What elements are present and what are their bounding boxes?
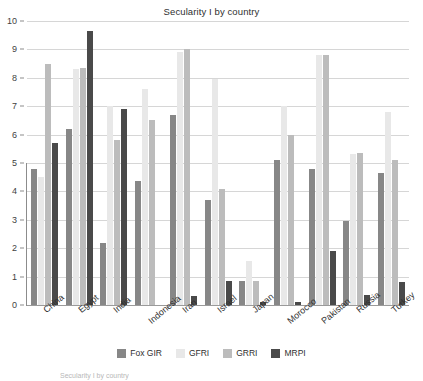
y-axis-tick-mark (20, 276, 24, 277)
x-axis-label-slot: Turkey (374, 306, 409, 348)
y-axis-tick-label: 8 (12, 73, 17, 82)
y-axis-tick-mark (20, 77, 24, 78)
x-axis-labels: ChinaEgyptIndiaIndonesiaIranIsraelJapanM… (27, 306, 409, 348)
bar (107, 106, 113, 305)
bar-group (166, 21, 201, 305)
x-axis-label-slot: Iran (166, 306, 201, 348)
legend-item[interactable]: GRRI (223, 348, 257, 358)
bar-group (96, 21, 131, 305)
bar (184, 49, 190, 305)
y-axis-tick-mark (20, 134, 24, 135)
legend-swatch (117, 349, 126, 358)
y-axis-tick-label: 0 (12, 301, 17, 310)
bar (343, 221, 349, 305)
legend-label: MRPI (284, 348, 305, 358)
bar (392, 160, 398, 305)
y-axis-tick-mark (20, 106, 24, 107)
y-axis-tick-mark (20, 191, 24, 192)
bar-group (235, 21, 270, 305)
y-axis-tick-label: 5 (12, 159, 17, 168)
bar-group (62, 21, 97, 305)
x-axis-label-slot: Pakistan (305, 306, 340, 348)
chart-legend: Fox GIRGFRIGRRIMRPI (0, 348, 423, 358)
bar-group (201, 21, 236, 305)
bar (38, 177, 44, 305)
bar (177, 52, 183, 305)
y-axis-tick-mark (20, 21, 24, 22)
legend-label: Fox GIR (130, 348, 162, 358)
x-axis-label-slot: Israel (201, 306, 236, 348)
bar (205, 200, 211, 305)
bar (219, 189, 225, 305)
bar (288, 135, 294, 305)
y-axis-tick-mark (20, 163, 24, 164)
bar (170, 115, 176, 305)
x-axis-label-slot: Morocco (270, 306, 305, 348)
bar-group (27, 21, 62, 305)
bar-chart: Secularity I by country 012345678910 Chi… (0, 0, 423, 381)
legend-label: GRRI (236, 348, 257, 358)
legend-swatch (271, 349, 280, 358)
bar (149, 120, 155, 305)
bar (114, 140, 120, 305)
y-axis-tick-label: 6 (12, 130, 17, 139)
x-axis-label-slot: Indonesia (131, 306, 166, 348)
bar (316, 55, 322, 305)
bar-group (305, 21, 340, 305)
bar (309, 169, 315, 305)
bar (274, 160, 280, 305)
bar (73, 69, 79, 305)
y-axis-tick-label: 7 (12, 102, 17, 111)
bar (100, 243, 106, 305)
bar (330, 251, 336, 305)
y-axis-tick-label: 9 (12, 45, 17, 54)
bar-group (340, 21, 375, 305)
chart-title: Secularity I by country (0, 6, 423, 17)
x-axis-label-slot: China (27, 306, 62, 348)
y-axis: 012345678910 (0, 21, 24, 305)
y-axis-tick-mark (20, 248, 24, 249)
y-axis-tick-mark (20, 219, 24, 220)
legend-swatch (223, 349, 232, 358)
bar (323, 55, 329, 305)
bar (66, 129, 72, 305)
y-axis-tick-mark (20, 305, 24, 306)
y-axis-tick-label: 3 (12, 215, 17, 224)
bar (357, 153, 363, 305)
x-axis-label-slot: Egypt (62, 306, 97, 348)
bar-group (374, 21, 409, 305)
y-axis-tick-label: 1 (12, 272, 17, 281)
bar (350, 154, 356, 305)
y-axis-tick-label: 2 (12, 244, 17, 253)
legend-item[interactable]: GFRI (176, 348, 209, 358)
bar (45, 64, 51, 305)
legend-item[interactable]: MRPI (271, 348, 305, 358)
legend-swatch (176, 349, 185, 358)
bar-group (131, 21, 166, 305)
bar (246, 261, 252, 305)
x-axis-label-slot: Russia (340, 306, 375, 348)
bar (31, 169, 37, 305)
bar (87, 31, 93, 305)
bar (378, 173, 384, 305)
x-axis-label-slot: India (96, 306, 131, 348)
bar (52, 143, 58, 305)
bar (121, 109, 127, 305)
bar (385, 112, 391, 305)
bar (281, 106, 287, 305)
y-axis-tick-label: 4 (12, 187, 17, 196)
bar (239, 281, 245, 305)
bar-group (270, 21, 305, 305)
x-axis-label-slot: Japan (235, 306, 270, 348)
plot-area (27, 21, 409, 305)
bar (142, 89, 148, 305)
y-axis-tick-mark (20, 49, 24, 50)
bar (135, 181, 141, 305)
footnote-text: Secularity I by country (60, 372, 129, 381)
bar (212, 79, 218, 305)
y-axis-tick-label: 10 (7, 17, 17, 26)
legend-label: GFRI (189, 348, 209, 358)
bar-groups (27, 21, 409, 305)
bar (80, 68, 86, 305)
legend-item[interactable]: Fox GIR (117, 348, 162, 358)
